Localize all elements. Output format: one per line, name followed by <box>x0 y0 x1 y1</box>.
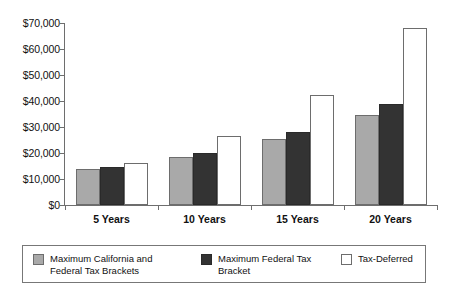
x-axis-tick-mark <box>158 205 159 210</box>
y-axis-tick-mark <box>59 179 64 180</box>
y-axis-tick-label: $30,000 <box>23 122 60 133</box>
chart-legend: Maximum California and Federal Tax Brack… <box>22 245 426 283</box>
x-axis-tick-labels: 5 Years10 Years15 Years20 Years <box>65 213 437 233</box>
bar <box>169 157 193 205</box>
x-axis-tick-label: 15 Years <box>276 213 318 225</box>
legend-item-label: Maximum California and Federal Tax Brack… <box>50 253 183 277</box>
x-axis-tick-label: 5 Years <box>93 213 130 225</box>
legend-item-max-federal: Maximum Federal Tax Bracket <box>201 253 331 277</box>
bar <box>403 28 427 205</box>
x-axis-tick-mark <box>344 205 345 210</box>
legend-item-max-california-and-federal: Maximum California and Federal Tax Brack… <box>33 253 183 277</box>
legend-item-label: Tax-Deferred <box>358 253 413 265</box>
y-axis-tick-mark <box>59 75 64 76</box>
y-axis-tick-mark <box>59 153 64 154</box>
bar-group <box>158 23 251 205</box>
legend-swatch-icon-gray <box>33 254 44 265</box>
x-axis-tick-mark <box>65 205 66 210</box>
legend-item-tax-deferred: Tax-Deferred <box>341 253 431 265</box>
y-axis-tick-labels: $0$10,000$20,000$30,000$40,000$50,000$60… <box>0 8 60 208</box>
y-axis-tick-mark <box>59 23 64 24</box>
bar <box>100 167 124 205</box>
bar <box>193 153 217 205</box>
bar <box>286 132 310 205</box>
bar <box>310 95 334 206</box>
y-axis-tick-label: $50,000 <box>23 70 60 81</box>
x-axis-tick-mark <box>437 205 438 210</box>
y-axis-tick-label: $10,000 <box>23 174 60 185</box>
bar <box>262 139 286 205</box>
y-axis-tick-mark <box>59 49 64 50</box>
y-axis-tick-label: $20,000 <box>23 148 60 159</box>
bar <box>355 115 379 205</box>
y-axis-tick-mark <box>59 205 64 206</box>
y-axis-tick-mark <box>59 101 64 102</box>
bar <box>76 169 100 205</box>
x-axis-tick-label: 20 Years <box>369 213 411 225</box>
bar-group <box>251 23 344 205</box>
bars-container <box>65 23 437 205</box>
y-axis-tick-mark <box>59 127 64 128</box>
y-axis-tick-label: $70,000 <box>23 18 60 29</box>
bar <box>217 136 241 205</box>
bar-group <box>344 23 437 205</box>
legend-swatch-icon-black <box>201 254 212 265</box>
x-axis-tick-mark <box>251 205 252 210</box>
plot-area: $0$10,000$20,000$30,000$40,000$50,000$60… <box>0 8 449 208</box>
legend-item-label: Maximum Federal Tax Bracket <box>218 253 331 277</box>
y-axis-tick-label: $40,000 <box>23 96 60 107</box>
x-axis-tick-label: 10 Years <box>183 213 225 225</box>
legend-swatch-icon-white <box>341 254 352 265</box>
bar <box>124 163 148 205</box>
y-axis-tick-label: $60,000 <box>23 44 60 55</box>
bar <box>379 104 403 205</box>
bar-chart: $0$10,000$20,000$30,000$40,000$50,000$60… <box>0 0 449 295</box>
bar-group <box>65 23 158 205</box>
